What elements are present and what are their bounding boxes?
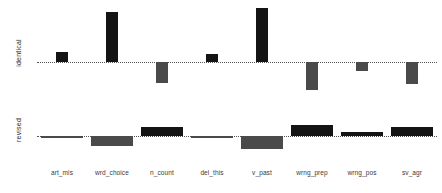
x-tick-art_mis: art_mis [37, 168, 87, 178]
bar-identical-del_this [206, 54, 218, 62]
bar-slot-identical-1 [87, 4, 137, 110]
x-tick-wrng_prep: wrng_prep [287, 168, 337, 178]
x-axis-tick-labels: art_mis wrd_choice n_count del_this v_pa… [37, 168, 437, 180]
x-tick-v_past: v_past [237, 168, 287, 178]
x-tick-sv_agr: sv_agr [387, 168, 437, 178]
bar-identical-wrng_prep [306, 62, 318, 90]
bar-identical-art_mis [56, 52, 68, 62]
bar-revised-wrng_pos [341, 132, 383, 136]
x-tick-del_this: del_this [187, 168, 237, 178]
bar-identical-wrng_pos [356, 62, 368, 71]
bar-revised-del_this [191, 136, 233, 138]
panel-revised [37, 112, 437, 162]
bar-slot-identical-4 [237, 4, 287, 110]
y-axis-label-identical: identical [14, 25, 24, 81]
bar-revised-art_mis [41, 136, 83, 138]
x-tick-wrd_choice: wrd_choice [87, 168, 137, 178]
bar-revised-wrng_prep [291, 125, 333, 136]
panel-identical [37, 4, 437, 110]
bar-slot-revised-4 [237, 112, 287, 162]
bar-slot-revised-3 [187, 112, 237, 162]
bar-identical-sv_agr [406, 62, 418, 84]
bar-chart-figure: identical revised · · · · · · · · art_mi… [0, 0, 442, 193]
x-tick-wrng_pos: wrng_pos [337, 168, 387, 178]
bar-slot-identical-3 [187, 4, 237, 110]
bar-revised-sv_agr [391, 127, 433, 136]
bar-slot-revised-7 [387, 112, 437, 162]
bar-slot-identical-2 [137, 4, 187, 110]
bar-slot-identical-6 [337, 4, 387, 110]
bar-slot-identical-5 [287, 4, 337, 110]
y-axis-label-revised: revised [14, 105, 24, 155]
bar-slot-revised-0 [37, 112, 87, 162]
bar-slot-revised-5 [287, 112, 337, 162]
x-tick-n_count: n_count [137, 168, 187, 178]
bar-slot-identical-0 [37, 4, 87, 110]
bar-slot-identical-7 [387, 4, 437, 110]
bar-slot-revised-1 [87, 112, 137, 162]
bar-slot-revised-6 [337, 112, 387, 162]
bar-revised-wrd_choice [91, 136, 133, 146]
bar-revised-v_past [241, 136, 283, 149]
bar-slot-revised-2 [137, 112, 187, 162]
bar-identical-n_count [156, 62, 168, 83]
bar-identical-v_past [256, 8, 268, 62]
bar-identical-wrd_choice [106, 12, 118, 62]
bar-revised-n_count [141, 127, 183, 136]
